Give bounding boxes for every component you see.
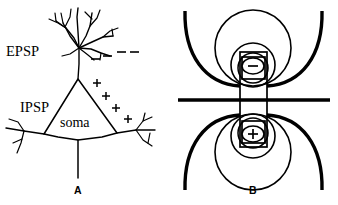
figure-canvas: EPSP IPSP soma A [0, 0, 338, 205]
upper-field-group [185, 10, 322, 87]
plus-sign-1 [93, 79, 101, 87]
dendrite-twig-left-b [65, 9, 71, 27]
apical-trunk [78, 48, 79, 79]
charge-compartment-bottom [242, 121, 265, 143]
plus-sign-4 [124, 115, 132, 123]
positive-charge-group [93, 79, 132, 123]
dendrite-twig-rightlow-a [100, 53, 101, 60]
dendrite-twig-down-left [62, 48, 79, 56]
panel-a-group: EPSP IPSP soma A [6, 8, 155, 196]
field-arc-outer-lower-left [185, 115, 240, 190]
soma-body [44, 79, 117, 140]
basal-dendrites-right [117, 113, 155, 146]
charge-compartment-top [242, 57, 265, 79]
dendrite-twig-upleft-b [55, 13, 56, 21]
panel-b-caption: B [249, 184, 257, 196]
apical-dendrite [49, 8, 118, 79]
soma-outline [44, 79, 117, 140]
plus-sign-2 [102, 92, 110, 100]
basal-dendrites-left [6, 119, 44, 153]
basal-left-main [6, 128, 44, 134]
field-arc-outer-upper-right [267, 11, 322, 86]
panel-b-group: B [178, 10, 330, 196]
ipsp-label: IPSP [20, 99, 49, 115]
figure-root: EPSP IPSP soma A [0, 0, 338, 205]
panel-a-caption: A [74, 184, 82, 196]
field-arc-outer-lower-right [267, 115, 322, 190]
basal-left-down [17, 131, 24, 153]
negative-charge-group [91, 52, 139, 59]
plus-sign-3 [112, 104, 120, 112]
epsp-label: EPSP [6, 43, 39, 59]
dendrite-branch-center [77, 8, 79, 48]
dendrite-twig-left-a [61, 13, 63, 23]
field-arc-outer-upper-left [185, 11, 240, 86]
basal-right-up [136, 113, 145, 130]
basal-right-down-twig [148, 133, 150, 143]
soma-label: soma [60, 115, 90, 130]
dendrite-branch-right [79, 36, 113, 48]
